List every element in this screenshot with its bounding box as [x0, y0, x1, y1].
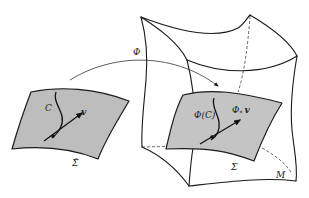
- edge-right: [291, 56, 297, 181]
- vector-label: v: [81, 107, 87, 117]
- edge-left-back: [141, 17, 147, 147]
- base-point: [51, 134, 55, 138]
- manifold-diagram: Φ C v Σ̃ Φ(C) Φ*v Σ M: [0, 0, 309, 198]
- bottom-edge-front: [189, 180, 296, 186]
- source-surface: C v Σ̃: [12, 89, 129, 168]
- image-base-point: [210, 135, 214, 139]
- curve-label: C: [45, 103, 52, 113]
- edge-front-left-low: [189, 148, 193, 186]
- image-curve-label: Φ(C): [194, 110, 216, 120]
- top-edge-back: [141, 15, 250, 33]
- bottom-edge-left: [142, 147, 189, 186]
- hidden-edge-bottom-right: [262, 148, 291, 172]
- target-surface: Φ(C) Φ*v Σ: [166, 92, 282, 172]
- target-surface-label: Σ: [230, 162, 238, 172]
- map-arrow: [70, 60, 218, 86]
- top-edge-right: [250, 15, 297, 56]
- source-surface-label: Σ̃: [71, 158, 79, 168]
- source-surface-sheet: [12, 89, 129, 159]
- manifold-label: M: [275, 170, 286, 180]
- top-edge-front: [187, 56, 297, 71]
- target-surface-sheet: [166, 92, 282, 161]
- top-edge-left-front: [141, 17, 187, 60]
- map-label: Φ: [133, 47, 140, 57]
- hidden-edge-back-vertical: [238, 16, 250, 92]
